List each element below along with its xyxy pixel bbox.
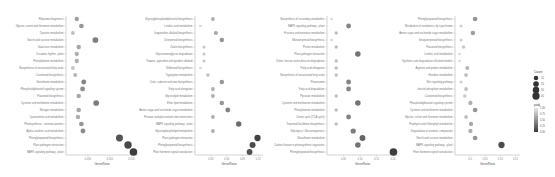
data-point	[75, 17, 79, 21]
category-label: Alpha-Linolenic acid metabolism	[26, 129, 63, 133]
category-label: Glycerophospholipid metabolism	[155, 129, 192, 133]
dotplot-panel-1: Ribosome biogenesisGlycine, serine and t…	[16, 16, 138, 166]
category-label: Synthesis and degradation of ketone bodi…	[402, 59, 453, 63]
category-label: Phenylpropanoid biosynthesis	[290, 150, 325, 154]
data-point	[334, 94, 338, 98]
data-point	[81, 129, 86, 134]
data-point	[334, 59, 338, 63]
padj-tick-labels: 1.000.750.500.250.00	[540, 106, 546, 134]
category-label: Carotenoid biosynthesis	[36, 73, 64, 77]
data-point	[334, 122, 338, 126]
data-point	[220, 101, 225, 106]
category-label: Phenylpropanoid biosynthesis	[158, 143, 193, 147]
data-point	[75, 59, 79, 63]
category-label: Inositol phosphate metabolism	[417, 87, 452, 91]
x-axis-title: GeneRatio	[355, 162, 370, 166]
data-point	[334, 31, 338, 35]
data-point	[462, 45, 466, 49]
category-label: Cyanoamino acid metabolism	[29, 115, 63, 119]
category-label: Monoterpenoid biosynthesis	[292, 38, 325, 42]
category-label: Fatty acid elongation	[169, 87, 193, 91]
data-point	[498, 142, 504, 148]
x-axis-title: GeneRatio	[480, 162, 495, 166]
data-point	[202, 59, 205, 62]
data-point	[463, 94, 467, 98]
category-label: MAPK signaling pathway - plant	[416, 143, 453, 147]
x-tick-label: 0.05	[341, 157, 347, 161]
data-point	[355, 100, 361, 106]
category-label: Plant hormone signal transduction	[153, 150, 193, 154]
category-label: Nitrogen metabolism	[40, 108, 64, 112]
data-point	[220, 38, 225, 43]
category-label: Fatty acid elongation	[301, 66, 325, 70]
data-point	[334, 66, 338, 70]
data-point	[76, 115, 81, 120]
category-label: Biosynthesis of unsaturated fatty acids	[280, 73, 325, 77]
data-point	[464, 73, 468, 77]
category-label: Phosphatidylinositol signaling system	[410, 101, 453, 105]
x-axis-title: GeneRatio	[94, 162, 109, 166]
data-point	[334, 108, 338, 112]
data-point	[202, 45, 205, 48]
category-label: Diterpenoid biosynthesis	[164, 38, 193, 42]
category-label: Carbon fixation in photosynthetic organi…	[274, 143, 325, 147]
data-point	[71, 31, 75, 35]
category-label: Cysteine and methionine metabolism	[21, 101, 64, 105]
data-point	[202, 52, 205, 55]
data-point	[211, 94, 215, 98]
category-label: Fatty acid degradation	[299, 87, 325, 91]
data-point	[355, 51, 361, 57]
category-label: Linoleic acid metabolism	[424, 52, 452, 56]
padj-tick-label: 0.25	[540, 124, 546, 128]
panels-group: Ribosome biogenesisGlycine, serine and t…	[16, 16, 520, 166]
data-point	[199, 67, 202, 70]
category-label: Cutin, suberine and wax biosynthesis	[150, 80, 194, 84]
data-point	[460, 38, 463, 41]
data-point	[458, 53, 461, 56]
x-tick-label: 0.10	[357, 157, 363, 161]
data-point	[334, 45, 338, 49]
category-label: Porphyrin and chlorophyll metabolism	[409, 122, 452, 126]
category-label: Stilbenoid biosynthesis	[166, 66, 193, 70]
x-tick-label: 0.03	[208, 157, 214, 161]
category-label: Citrate cycle (TCA cycle)	[296, 115, 325, 119]
category-label: Metabolism of xenobiotics by cytochrome	[405, 24, 453, 28]
category-label: Isoquinoline alkaloid biosynthesis	[154, 31, 193, 35]
category-label: Glycosylphosphatidylinositol biosynthesi…	[145, 17, 193, 21]
data-point	[206, 73, 210, 77]
data-point	[93, 100, 99, 106]
data-point	[473, 108, 478, 113]
category-label: Degradation of aromatic compounds	[411, 129, 454, 133]
data-point	[346, 115, 351, 120]
data-point	[330, 39, 333, 42]
data-point	[346, 87, 351, 92]
category-label: Starch and sucrose metabolism	[416, 136, 452, 140]
data-point	[330, 18, 333, 21]
category-label: Glycolysis / Gluconeogenesis	[291, 129, 326, 133]
data-point	[355, 142, 361, 148]
x-tick-label: 0.150	[128, 157, 135, 161]
category-label: Flavonoid biosynthesis	[37, 94, 64, 98]
count-legend-label: 30	[541, 88, 544, 92]
dotplot-canvas: Ribosome biogenesisGlycine, serine and t…	[0, 0, 555, 177]
data-point	[225, 108, 230, 113]
data-point	[351, 128, 356, 133]
category-label: Glycine, serine and threonine metabolism	[405, 115, 453, 119]
dotplot-panel-2: Glycosylphosphatidylinositol biosynthesi…	[139, 16, 263, 166]
category-label: Biosynthesis of unsaturated fatty acids	[19, 66, 64, 70]
category-label: Valine, leucine and isoleucine degradati…	[276, 59, 325, 63]
data-point	[76, 94, 81, 99]
category-label: MAPK signaling pathway - plant	[27, 150, 64, 154]
category-label: Photosynthesis - antenna proteins	[24, 122, 64, 126]
category-label: Phenylalanine metabolism	[294, 108, 324, 112]
category-label: Glycerolipid metabolism	[165, 94, 193, 98]
data-point	[346, 24, 351, 29]
data-point	[93, 37, 99, 43]
x-tick-label: 0.20	[391, 157, 397, 161]
count-legend-dot	[532, 92, 539, 99]
x-tick-label: 0.15	[374, 157, 380, 161]
category-label: Glycine, serine and threonine metabolism	[16, 24, 64, 28]
data-point	[116, 135, 123, 142]
category-label: Fructose and mannose metabolism	[284, 31, 325, 35]
data-point	[468, 129, 472, 133]
